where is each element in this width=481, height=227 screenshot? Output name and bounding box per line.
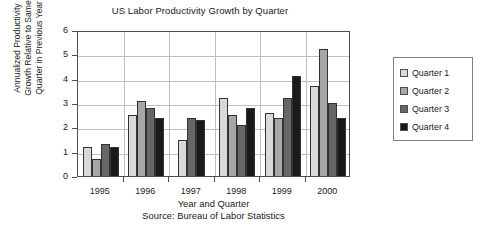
x-axis-tick [168, 177, 169, 182]
legend-item-quarter-4[interactable]: Quarter 4 [400, 118, 472, 136]
chart-title: US Labor Productivity Growth by Quarter [0, 5, 400, 16]
bar-2000-q2 [319, 49, 328, 176]
bar-2000-q3 [328, 103, 337, 176]
y-axis-tick-label: 4 [44, 75, 68, 84]
x-axis-tick [123, 177, 124, 182]
bar-1996-q2 [137, 101, 146, 176]
y-axis-tick-label: 2 [44, 123, 68, 132]
y-axis-tick [72, 104, 77, 105]
y-axis-tick-label: 0 [44, 172, 68, 181]
y-axis-title-line-2: Growth Relative to Same [23, 0, 34, 124]
y-axis-tick-label: 1 [44, 148, 68, 157]
plot-area [77, 31, 350, 177]
legend-swatch-icon-quarter-4 [400, 123, 408, 131]
bar-1997-q1 [178, 140, 187, 177]
y-axis-title-line-1: Annualized Productivity [12, 0, 23, 124]
bar-group-1995 [78, 32, 124, 176]
x-axis-label-2000: 2000 [301, 186, 353, 196]
bar-group-1998 [215, 32, 261, 176]
chart-source-note: Source: Bureau of Labor Statistics [77, 210, 350, 222]
bar-2000-q1 [310, 86, 319, 176]
bar-1997-q4 [196, 120, 205, 176]
bar-group-1997 [169, 32, 215, 176]
bar-1996-q4 [155, 118, 164, 176]
legend-swatch-icon-quarter-2 [400, 87, 408, 95]
legend-item-quarter-3[interactable]: Quarter 3 [400, 100, 472, 118]
bar-1999-q1 [265, 113, 274, 176]
x-axis-title: Year and Quarter Source: Bureau of Labor… [77, 198, 350, 222]
x-axis-label-1996: 1996 [119, 186, 171, 196]
legend-label-quarter-3: Quarter 3 [412, 105, 449, 114]
bar-1999-q4 [292, 76, 301, 176]
legend-label-quarter-4: Quarter 4 [412, 123, 449, 132]
bar-1995-q4 [110, 147, 119, 176]
bar-1998-q3 [237, 125, 246, 176]
chart-figure: US Labor Productivity Growth by Quarter … [0, 0, 481, 227]
legend-swatch-icon-quarter-1 [400, 69, 408, 77]
x-axis-tick [214, 177, 215, 182]
x-axis-label-1998: 1998 [210, 186, 262, 196]
bar-1995-q3 [101, 144, 110, 176]
legend-label-quarter-1: Quarter 1 [412, 69, 449, 78]
legend-swatch-icon-quarter-3 [400, 105, 408, 113]
x-axis-label-1995: 1995 [74, 186, 126, 196]
bar-1999-q3 [283, 98, 292, 176]
x-axis-label-1997: 1997 [165, 186, 217, 196]
y-axis-tick [72, 153, 77, 154]
bar-1997-q3 [187, 118, 196, 176]
x-axis-label-1999: 1999 [256, 186, 308, 196]
legend-item-quarter-2[interactable]: Quarter 2 [400, 82, 472, 100]
y-axis-tick [72, 177, 77, 178]
y-axis-tick [72, 80, 77, 81]
y-axis-tick-label: 6 [44, 26, 68, 35]
bar-1995-q1 [83, 147, 92, 176]
y-axis-tick [72, 55, 77, 56]
x-axis-title-label: Year and Quarter [77, 198, 350, 210]
y-axis-tick-label: 3 [44, 99, 68, 108]
bar-2000-q4 [337, 118, 346, 176]
legend-label-quarter-2: Quarter 2 [412, 87, 449, 96]
y-axis-tick [72, 128, 77, 129]
bar-group-1996 [124, 32, 170, 176]
bar-1999-q2 [274, 118, 283, 176]
y-axis-tick-label: 5 [44, 50, 68, 59]
y-axis-title-line-3: Quarter in Previous Year [34, 0, 45, 124]
bar-group-1999 [260, 32, 306, 176]
bar-group-2000 [306, 32, 352, 176]
y-axis-tick [72, 31, 77, 32]
chart-legend: Quarter 1Quarter 2Quarter 3Quarter 4 [393, 57, 473, 141]
legend-item-quarter-1[interactable]: Quarter 1 [400, 64, 472, 82]
x-axis-tick [259, 177, 260, 182]
bar-1996-q3 [146, 108, 155, 176]
bar-1995-q2 [92, 159, 101, 176]
bar-1996-q1 [128, 115, 137, 176]
bar-1998-q1 [219, 98, 228, 176]
bar-1998-q4 [246, 108, 255, 176]
bar-1998-q2 [228, 115, 237, 176]
x-axis-tick [305, 177, 306, 182]
